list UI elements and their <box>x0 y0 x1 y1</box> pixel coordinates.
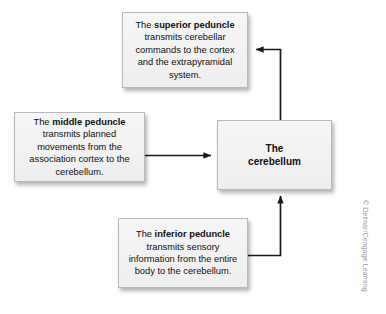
superior-emphasis: superior peduncle <box>154 20 235 30</box>
inferior-body: transmits sensory information from the e… <box>129 242 238 277</box>
box-superior-peduncle: The superior peduncle transmits cerebell… <box>122 12 248 88</box>
box-inferior-peduncle: The inferior peduncle transmits sensory … <box>118 218 248 288</box>
superior-body: transmits cerebellar commands to the cor… <box>135 32 234 79</box>
cerebellum-line-1: The <box>266 143 284 154</box>
middle-lead: The <box>34 117 53 127</box>
figure-canvas: The superior peduncle transmits cerebell… <box>0 0 386 314</box>
box-cerebellum-text: Thecerebellum <box>223 142 326 168</box>
inferior-lead: The <box>136 229 155 239</box>
inferior-emphasis: inferior peduncle <box>155 229 230 239</box>
copyright-credit: © Delmar/Cengage Learning <box>262 200 372 214</box>
superior-lead: The <box>135 20 154 30</box>
box-superior-peduncle-text: The superior peduncle transmits cerebell… <box>128 19 242 81</box>
cerebellum-line-2: cerebellum <box>248 156 301 167</box>
box-middle-peduncle: The middle peduncle transmits planned mo… <box>14 112 145 182</box>
arrow-cerebellum-to-superior <box>256 50 281 121</box>
middle-body: transmits planned movements from the ass… <box>29 129 129 176</box>
box-cerebellum: Thecerebellum <box>217 120 332 190</box>
box-inferior-peduncle-text: The inferior peduncle transmits sensory … <box>124 228 242 278</box>
box-middle-peduncle-text: The middle peduncle transmits planned mo… <box>20 116 139 178</box>
middle-emphasis: middle peduncle <box>52 117 125 127</box>
